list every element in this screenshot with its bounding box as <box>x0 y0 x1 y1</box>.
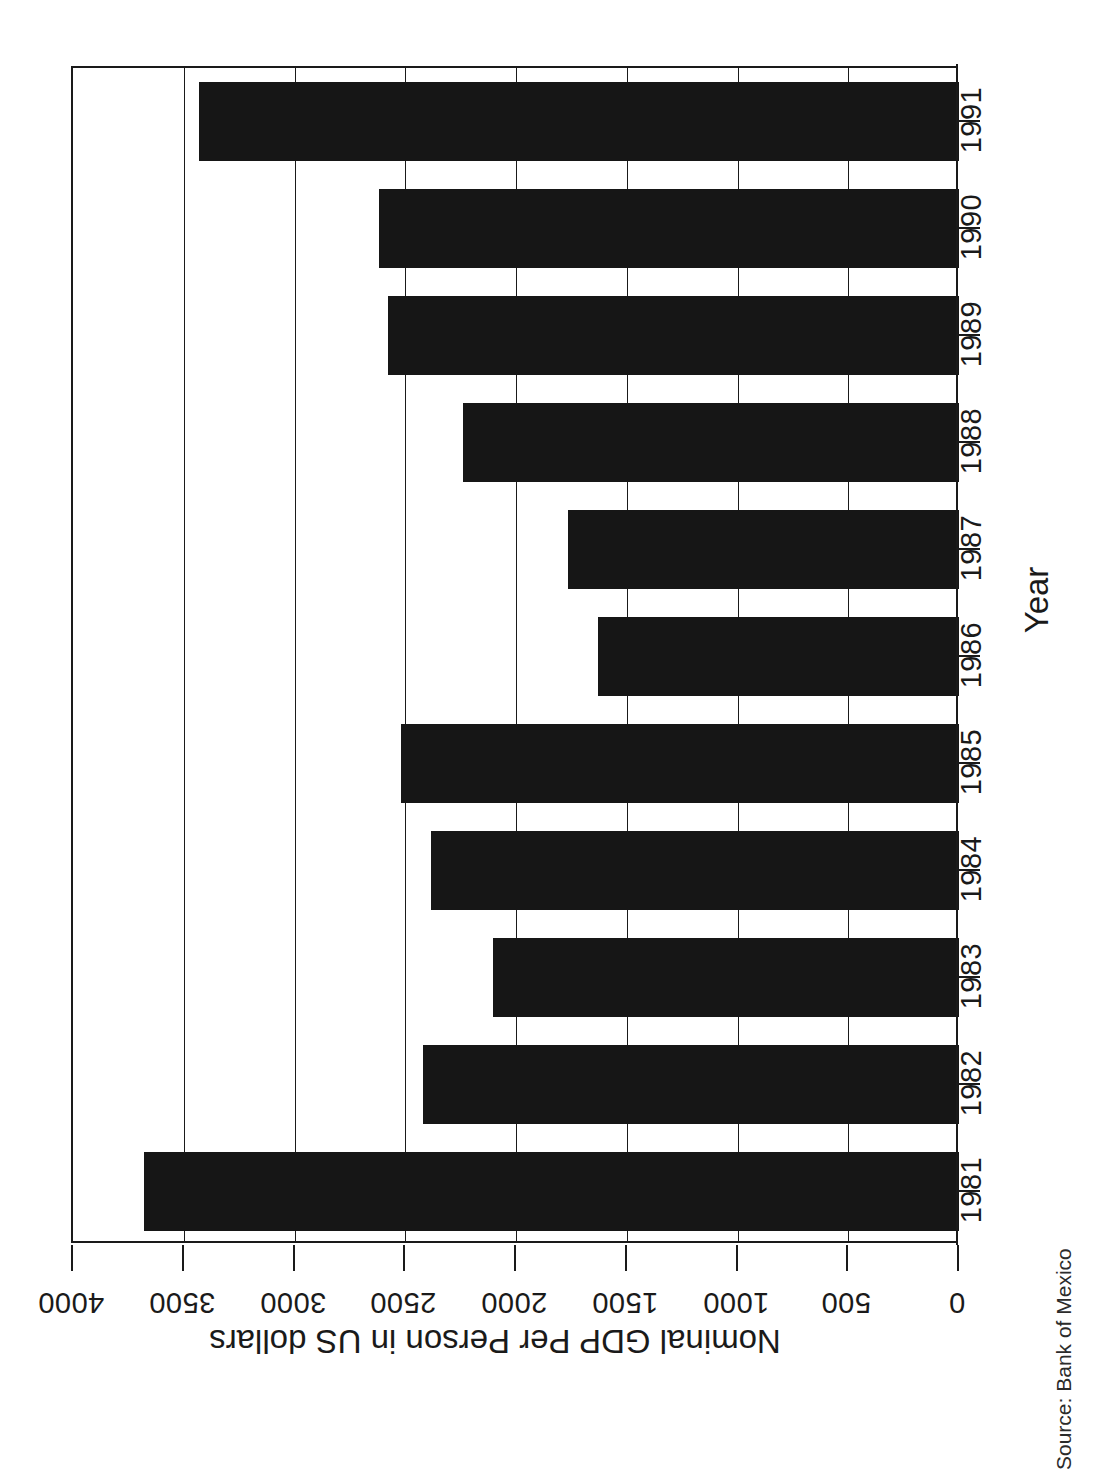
source-note: Source: Bank of Mexico <box>1052 1150 1076 1470</box>
category-tick-label-1983: 1983 <box>955 916 989 1036</box>
bar-1982 <box>423 1045 959 1124</box>
value-axis-title: Nominal GDP Per Person in US dollars <box>130 1322 860 1360</box>
bar-1990 <box>379 189 959 268</box>
value-tick-4000 <box>71 1245 73 1271</box>
category-tick-label-1984: 1984 <box>955 809 989 929</box>
value-tick-label-3000: 3000 <box>233 1286 353 1319</box>
bar-1987 <box>568 510 959 589</box>
value-tick-2500 <box>403 1245 405 1271</box>
value-tick-500 <box>846 1245 848 1271</box>
bar-1986 <box>598 617 959 696</box>
value-tick-label-1000: 1000 <box>676 1286 796 1319</box>
category-tick-label-1981: 1981 <box>955 1130 989 1250</box>
bar-1983 <box>493 938 959 1017</box>
value-tick-3000 <box>293 1245 295 1271</box>
gridline-3000 <box>295 68 296 1241</box>
plot-area <box>71 66 958 1243</box>
value-tick-3500 <box>182 1245 184 1271</box>
bar-1991 <box>199 82 959 161</box>
value-tick-2000 <box>514 1245 516 1271</box>
bar-1981 <box>144 1152 959 1231</box>
category-axis-title: Year <box>1018 500 1056 700</box>
gridline-3500 <box>184 68 185 1241</box>
bar-1989 <box>388 296 959 375</box>
value-tick-label-500: 500 <box>786 1286 906 1319</box>
bar-1985 <box>401 724 959 803</box>
value-tick-label-2000: 2000 <box>454 1286 574 1319</box>
category-tick-label-1988: 1988 <box>955 381 989 501</box>
value-tick-label-3500: 3500 <box>122 1286 242 1319</box>
bar-1988 <box>463 403 959 482</box>
value-tick-label-1500: 1500 <box>565 1286 685 1319</box>
category-tick-label-1989: 1989 <box>955 274 989 394</box>
value-tick-1000 <box>736 1245 738 1271</box>
value-tick-label-4000: 4000 <box>11 1286 131 1319</box>
value-tick-1500 <box>625 1245 627 1271</box>
category-tick-label-1987: 1987 <box>955 488 989 608</box>
category-tick-label-1985: 1985 <box>955 702 989 822</box>
value-tick-label-2500: 2500 <box>343 1286 463 1319</box>
category-tick-label-1991: 1991 <box>955 60 989 180</box>
category-tick-label-1982: 1982 <box>955 1023 989 1143</box>
category-tick-label-1990: 1990 <box>955 167 989 287</box>
bar-1984 <box>431 831 959 910</box>
value-tick-label-0: 0 <box>897 1286 1017 1319</box>
category-tick-label-1986: 1986 <box>955 595 989 715</box>
